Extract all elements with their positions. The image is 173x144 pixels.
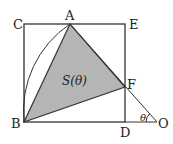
angle-arc-theta <box>146 114 150 122</box>
label-point-b: B <box>11 116 21 131</box>
label-point-c: C <box>13 17 23 32</box>
label-point-f: F <box>127 77 136 92</box>
label-point-e: E <box>129 17 139 32</box>
triangle-abf <box>24 24 125 122</box>
label-point-o: O <box>158 116 169 131</box>
area-label: S(θ) <box>62 74 87 88</box>
label-point-d: D <box>120 125 130 140</box>
geometry-diagram: A C E F B D O S(θ) θ <box>0 0 173 144</box>
label-point-a: A <box>64 8 75 23</box>
angle-label: θ <box>140 112 146 123</box>
